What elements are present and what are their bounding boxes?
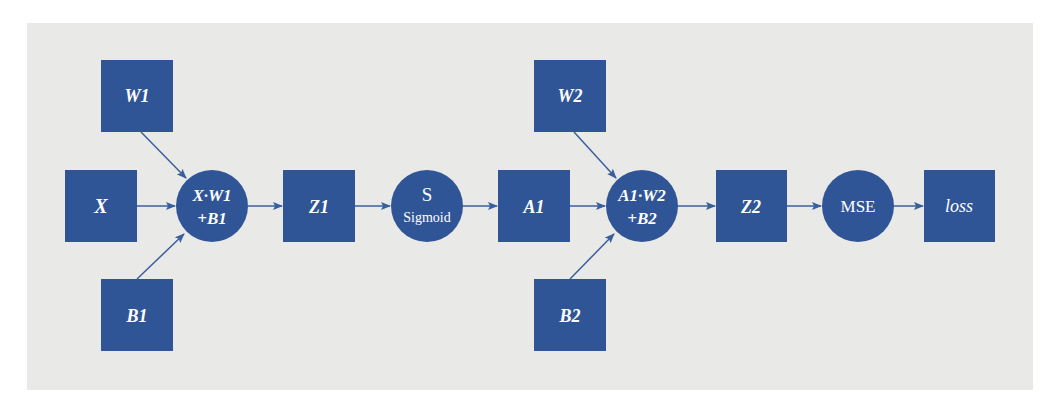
label-op1-line1: X·W1 [191,186,231,205]
label-x: X [93,195,108,217]
label-w1: W1 [124,86,149,106]
label-op1-line2: +B1 [197,209,227,228]
node-op2-linear [606,170,678,242]
label-sigmoid-name: Sigmoid [403,210,450,225]
label-b2: B2 [558,306,580,326]
label-b1: B1 [125,306,147,326]
node-op1-linear [176,170,248,242]
edge-b2-op2 [570,234,614,279]
label-sigmoid-symbol: S [422,184,433,205]
label-z2: Z2 [740,197,761,217]
label-a1: A1 [522,197,544,217]
label-op2-line2: +B2 [627,209,657,228]
label-mse: MSE [841,197,876,216]
edge-w1-op1 [141,132,186,178]
label-op2-line1: A1·W2 [617,186,666,205]
label-loss: loss [945,196,973,216]
edge-w2-op2 [574,132,616,178]
edge-b1-op1 [137,234,184,279]
computation-graph: X W1 B1 X·W1 +B1 Z1 S Sigmoid A1 W2 B2 A… [0,0,1050,407]
label-w2: W2 [557,86,582,106]
label-z1: Z1 [308,197,329,217]
node-sigmoid [391,170,463,242]
